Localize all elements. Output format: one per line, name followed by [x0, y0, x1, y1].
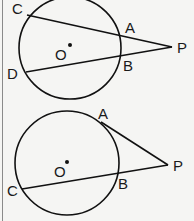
label-D-top: D	[7, 65, 18, 82]
label-C-bottom: C	[7, 182, 18, 199]
label-A-top: A	[125, 19, 135, 36]
figure-tangent-secant: O A B C P	[7, 105, 183, 215]
label-O-top: O	[55, 46, 67, 63]
label-C-top: C	[12, 0, 23, 17]
label-A-bottom: A	[98, 105, 108, 122]
label-B-bottom: B	[118, 175, 128, 192]
label-B-top: B	[123, 57, 133, 74]
label-P-bottom: P	[173, 157, 183, 174]
diagram-svg: O C A B D P O A B C P	[0, 0, 194, 221]
center-dot-top	[68, 43, 72, 47]
circle-top	[19, 0, 121, 99]
secant-DP	[26, 47, 172, 72]
secant-CP	[22, 165, 168, 189]
geometry-diagram: O C A B D P O A B C P	[0, 0, 194, 221]
secant-CP	[27, 15, 172, 47]
figure-two-secants: O C A B D P	[7, 0, 187, 99]
label-P-top: P	[177, 39, 187, 56]
label-O-bottom: O	[54, 163, 66, 180]
tangent-AP	[101, 122, 168, 165]
